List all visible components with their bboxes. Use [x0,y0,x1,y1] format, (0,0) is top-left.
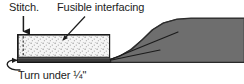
label-turn-under: Turn under ¼" [18,69,86,81]
interfacing-stipple-area [18,35,109,57]
garment-fill [108,19,244,63]
fold-band [17,57,111,62]
fusible-interfacing-diagram: Stitch. Fusible interfacing Turn under ¼… [0,0,244,84]
label-fusible-interfacing: Fusible interfacing [57,1,144,13]
label-stitch: Stitch. [9,1,39,13]
garment-body [108,18,244,62]
